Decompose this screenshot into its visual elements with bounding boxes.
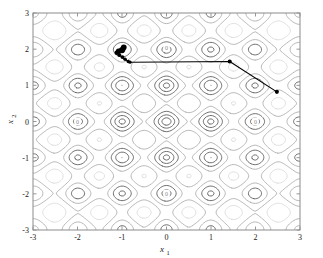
y-tick-label: -2 <box>22 190 29 199</box>
trajectory-point <box>275 90 279 94</box>
contour-plot: 0000 -3-2-10123 -3-2-10123 x 1 x 2 <box>0 0 323 258</box>
trajectory-point <box>228 59 232 63</box>
x-tick-label: 2 <box>254 233 258 242</box>
contour-label: 0 <box>165 45 168 51</box>
y-tick-label: 2 <box>25 45 29 54</box>
x-tick-label: -3 <box>30 233 37 242</box>
x-tick-label: -2 <box>74 233 81 242</box>
x-tick-label: 0 <box>165 233 169 242</box>
contour-label: 0 <box>76 119 79 125</box>
x-axis-title-text: x <box>159 244 164 254</box>
contour-label: 0 <box>165 191 168 197</box>
x-tick-label: 1 <box>209 233 213 242</box>
y-tick-label: -1 <box>22 154 29 163</box>
trajectory-point <box>121 45 127 51</box>
y-tick-label: 1 <box>25 81 29 90</box>
contour-label: 0 <box>254 119 257 125</box>
y-axis-title-subscript: 2 <box>10 114 17 117</box>
y-tick-label: -3 <box>22 226 29 235</box>
y-axis-title-text: x <box>5 120 15 125</box>
y-tick-label: 0 <box>25 118 29 127</box>
x-tick-label: -1 <box>119 233 126 242</box>
x-tick-label: 3 <box>298 233 302 242</box>
y-tick-label: 3 <box>25 9 29 18</box>
x-axis-title-subscript: 1 <box>166 249 169 256</box>
trajectory-point <box>127 60 130 63</box>
figure-container: 0000 -3-2-10123 -3-2-10123 x 1 x 2 <box>0 0 323 258</box>
